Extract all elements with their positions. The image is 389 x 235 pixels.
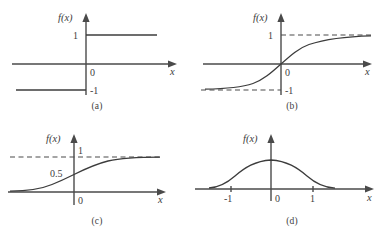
x-axis-label: x: [366, 192, 372, 203]
origin-label: 0: [78, 195, 83, 206]
x-axis-label: x: [364, 66, 370, 77]
panel-d: f(x) x 0 -1 1 (d): [195, 117, 389, 234]
y-axis-arrowhead: [70, 134, 77, 143]
y-axis-label: f(x): [253, 12, 268, 24]
panel-b-caption: (b): [195, 101, 389, 111]
origin-label: 0: [90, 67, 95, 78]
panel-b: f(x) x 0 1 -1 (b): [195, 0, 389, 117]
x-axis-label: x: [169, 66, 175, 77]
y-axis-arrowhead: [277, 13, 284, 22]
y-tick-label-neg1: -1: [285, 85, 293, 96]
y-axis-label: f(x): [243, 133, 258, 145]
origin-label: 0: [275, 193, 280, 204]
x-axis-label: x: [157, 194, 163, 205]
y-tick-label-pos1: 1: [73, 30, 78, 41]
sigmoid-curve: [10, 157, 160, 191]
x-tick-label-pos1: 1: [310, 193, 315, 204]
panel-a-plot: f(x) x 0 1 -1: [0, 0, 194, 100]
panel-a-caption: (a): [0, 101, 194, 111]
x-tick-label-neg1: -1: [224, 193, 232, 204]
panel-d-caption: (d): [195, 216, 389, 226]
panel-c: f(x) x 0 1 0.5 (c): [0, 117, 194, 234]
panel-c-plot: f(x) x 0 1 0.5: [0, 117, 194, 217]
panel-d-plot: f(x) x 0 -1 1: [195, 117, 389, 217]
y-tick-label-pos1: 1: [268, 30, 273, 41]
panel-b-plot: f(x) x 0 1 -1: [195, 0, 389, 100]
tanh-curve: [205, 36, 371, 89]
y-axis-label: f(x): [46, 133, 61, 145]
y-tick-label-half: 0.5: [50, 168, 63, 179]
figure-root: f(x) x 0 1 -1 (a) f(x) x 0 1 -1: [0, 0, 389, 235]
gaussian-curve: [209, 160, 335, 188]
panel-c-caption: (c): [0, 216, 194, 226]
y-tick-label-neg1: -1: [90, 85, 98, 96]
y-axis-arrowhead: [267, 134, 274, 143]
origin-label: 0: [285, 67, 290, 78]
panel-a: f(x) x 0 1 -1 (a): [0, 0, 194, 117]
y-tick-label-one: 1: [78, 145, 83, 156]
y-axis-arrowhead: [82, 13, 89, 22]
y-axis-label: f(x): [58, 12, 73, 24]
